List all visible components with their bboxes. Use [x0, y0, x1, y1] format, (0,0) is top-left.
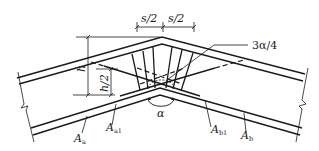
- beam-reinforcement-diagram: s/2 s/2 3α/4 h h/2 Aa Aa1 Ab1 Ab α: [0, 0, 319, 151]
- label-h-half: h/2: [98, 74, 111, 92]
- bottom-edge-lines: [31, 88, 302, 135]
- label-A-a: Aa: [73, 132, 86, 146]
- crossing-bars: [104, 66, 215, 96]
- label-s-half-right: s/2: [168, 12, 184, 25]
- label-A-a1: Aa1: [105, 121, 122, 135]
- label-alpha: α: [157, 107, 165, 120]
- label-A-b: Ab: [240, 129, 253, 143]
- label-h: h: [75, 65, 88, 72]
- alpha-arc: [148, 100, 174, 106]
- label-s-half-left: s/2: [141, 12, 157, 25]
- label-A-b1: Ab1: [210, 123, 227, 137]
- label-three-alpha-quarter: 3α/4: [252, 39, 277, 52]
